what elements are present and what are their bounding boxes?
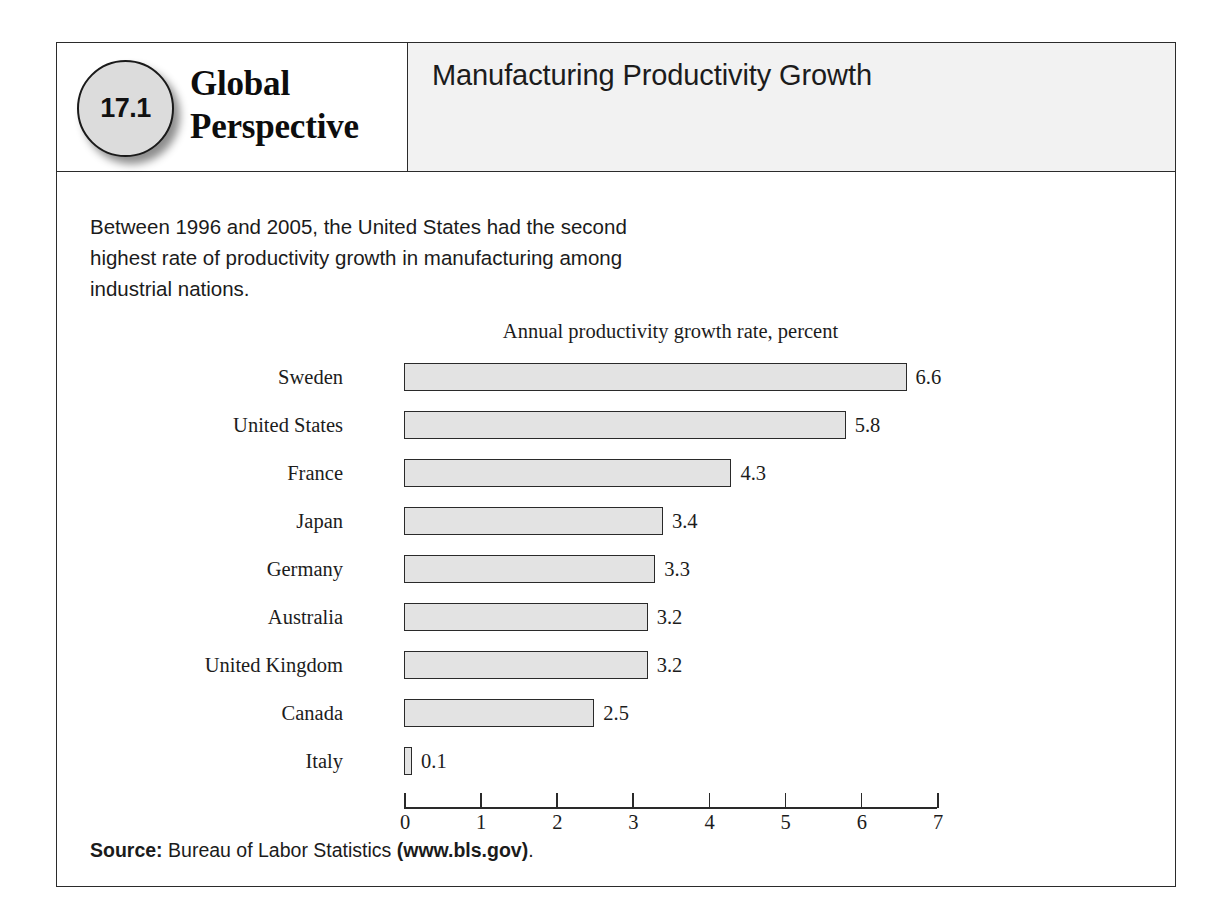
header-brand-cell: 17.1 Global Perspective bbox=[57, 43, 408, 171]
bar-group: 3.2 bbox=[404, 651, 682, 679]
chapter-number-badge: 17.1 bbox=[77, 60, 174, 157]
source-note: Source: Bureau of Labor Statistics (www.… bbox=[90, 839, 534, 862]
bar bbox=[404, 747, 412, 775]
chapter-number-text: 17.1 bbox=[100, 93, 151, 124]
bar-category-label: Italy bbox=[305, 750, 343, 773]
x-axis-tick-label: 3 bbox=[628, 811, 638, 834]
page-root: 17.1 Global Perspective Manufacturing Pr… bbox=[0, 0, 1222, 905]
x-axis-tick-label: 6 bbox=[857, 811, 867, 834]
bar-category-label: Germany bbox=[267, 558, 343, 581]
bar-value-label: 3.2 bbox=[657, 606, 683, 629]
box-header: 17.1 Global Perspective Manufacturing Pr… bbox=[57, 43, 1175, 172]
source-url: (www.bls.gov) bbox=[397, 839, 528, 861]
chart-row: Australia3.2 bbox=[57, 593, 1175, 641]
box-body: Between 1996 and 2005, the United States… bbox=[57, 172, 1175, 886]
x-axis-tick-label: 7 bbox=[933, 811, 943, 834]
bar-value-label: 0.1 bbox=[421, 750, 447, 773]
chart-row: Germany3.3 bbox=[57, 545, 1175, 593]
bar bbox=[404, 555, 655, 583]
bar-category-label: United Kingdom bbox=[205, 654, 343, 677]
bar bbox=[404, 603, 648, 631]
bar-value-label: 6.6 bbox=[916, 366, 942, 389]
chart-row: United Kingdom3.2 bbox=[57, 641, 1175, 689]
bar bbox=[404, 507, 663, 535]
chart-row: United States5.8 bbox=[57, 401, 1175, 449]
bar-category-label: France bbox=[287, 462, 343, 485]
bar-group: 3.2 bbox=[404, 603, 682, 631]
chart-row: Italy0.1 bbox=[57, 737, 1175, 785]
bar-group: 0.1 bbox=[404, 747, 447, 775]
intro-paragraph: Between 1996 and 2005, the United States… bbox=[90, 211, 650, 304]
chart-row: France4.3 bbox=[57, 449, 1175, 497]
bar-category-label: United States bbox=[233, 414, 343, 437]
bar-group: 6.6 bbox=[404, 363, 941, 391]
x-axis-tick bbox=[709, 793, 711, 808]
bar-value-label: 2.5 bbox=[603, 702, 629, 725]
bar-value-label: 3.2 bbox=[657, 654, 683, 677]
bar-group: 4.3 bbox=[404, 459, 766, 487]
x-axis-tick bbox=[632, 793, 634, 808]
series-name-line1: Global bbox=[190, 64, 290, 103]
global-perspective-box: 17.1 Global Perspective Manufacturing Pr… bbox=[56, 42, 1176, 887]
page-title: Manufacturing Productivity Growth bbox=[432, 59, 1175, 92]
chart-row: Japan3.4 bbox=[57, 497, 1175, 545]
bar bbox=[404, 699, 594, 727]
bar-value-label: 3.3 bbox=[664, 558, 690, 581]
chart-row: Canada2.5 bbox=[57, 689, 1175, 737]
x-axis-tick bbox=[937, 793, 939, 808]
chart-row: Sweden6.6 bbox=[57, 353, 1175, 401]
x-axis: 01234567 bbox=[404, 789, 937, 835]
x-axis-tick bbox=[785, 793, 787, 808]
source-period: . bbox=[528, 839, 533, 861]
x-axis-tick-label: 4 bbox=[704, 811, 714, 834]
x-axis-tick bbox=[861, 793, 863, 808]
x-axis-tick-label: 2 bbox=[552, 811, 562, 834]
source-agency: Bureau of Labor Statistics bbox=[168, 839, 391, 861]
bar-value-label: 4.3 bbox=[740, 462, 766, 485]
x-axis-tick bbox=[480, 793, 482, 808]
x-axis-tick bbox=[404, 793, 406, 808]
bar-category-label: Sweden bbox=[278, 366, 343, 389]
chart-title: Annual productivity growth rate, percent bbox=[404, 320, 937, 343]
source-label: Source: bbox=[90, 839, 163, 861]
series-name: Global Perspective bbox=[190, 62, 359, 148]
bar-category-label: Japan bbox=[296, 510, 343, 533]
bar-value-label: 5.8 bbox=[855, 414, 881, 437]
bar bbox=[404, 459, 731, 487]
bar bbox=[404, 651, 648, 679]
x-axis-tick bbox=[556, 793, 558, 808]
bar-category-label: Australia bbox=[268, 606, 343, 629]
bar bbox=[404, 411, 846, 439]
bar bbox=[404, 363, 907, 391]
bar-category-label: Canada bbox=[282, 702, 343, 725]
x-axis-tick-label: 1 bbox=[476, 811, 486, 834]
bar-group: 2.5 bbox=[404, 699, 629, 727]
chart-plot-area: Sweden6.6United States5.8France4.3Japan3… bbox=[57, 353, 1175, 785]
x-axis-tick-label: 0 bbox=[400, 811, 410, 834]
series-name-line2: Perspective bbox=[190, 105, 359, 148]
x-axis-tick-label: 5 bbox=[781, 811, 791, 834]
bar-group: 3.3 bbox=[404, 555, 690, 583]
bar-group: 5.8 bbox=[404, 411, 880, 439]
bar-group: 3.4 bbox=[404, 507, 698, 535]
bar-value-label: 3.4 bbox=[672, 510, 698, 533]
x-axis-line bbox=[404, 807, 937, 809]
header-title-cell: Manufacturing Productivity Growth bbox=[408, 43, 1175, 171]
